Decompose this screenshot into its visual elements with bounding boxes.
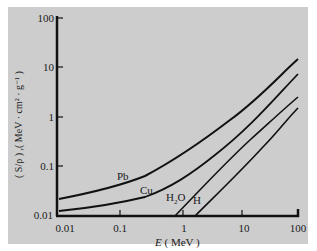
y-tick-label: 100 [38,12,55,24]
y-axis-label: ( S/ρ ) ,( MeV · cm² · g⁻¹ ) [13,71,25,178]
y-tick-label: 10 [43,61,55,73]
curve-label-pb: Pb [117,170,129,182]
curve-h [195,108,298,216]
y-tick-label: 0.01 [34,209,53,221]
curve-label-h2o: H2O [166,191,185,206]
curve-label-cu: Cu [140,184,153,196]
x-tick-label: 1 [181,222,187,234]
x-tick-label: 10 [239,222,251,234]
x-axis-label: E ( MeV ) [154,236,200,249]
y-tick-label: 1 [49,111,55,123]
chart-svg: 100 10 1 0.1 0.01 0.01 0.1 1 10 100 E ( … [0,0,317,251]
x-tick-label: 0.1 [113,222,127,234]
curve-label-h: H [193,194,201,206]
x-tick-label: 100 [290,222,307,234]
x-tick-label: 0.01 [55,222,74,234]
y-tick-label: 0.1 [40,160,54,172]
